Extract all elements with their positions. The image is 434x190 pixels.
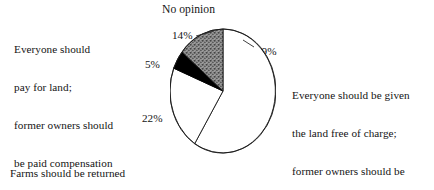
category-label-free-of-charge-line1: Everyone should be given xyxy=(292,89,410,102)
slice-value-5: 5% xyxy=(145,58,160,70)
pie-chart-figure: No opinion Everyone should pay for land;… xyxy=(0,0,434,190)
pie-slices xyxy=(170,29,276,153)
category-label-farms-returned-line1: Farms should be returned xyxy=(10,167,223,180)
category-label-pay-for-land-line3: former owners should xyxy=(14,119,113,132)
pie-graphic xyxy=(170,28,276,154)
chart-title-no-opinion: No opinion xyxy=(162,4,215,17)
category-label-pay-for-land-line1: Everyone should xyxy=(14,43,113,56)
slice-value-22: 22% xyxy=(142,112,163,124)
category-label-pay-for-land-line2: pay for land; xyxy=(14,81,113,94)
pie-svg xyxy=(170,28,276,154)
category-label-free-of-charge-line2: the land free of charge; xyxy=(292,127,410,140)
category-label-free-of-charge-line3: former owners should be xyxy=(292,165,410,178)
category-label-free-of-charge: Everyone should be given the land free o… xyxy=(292,64,410,190)
